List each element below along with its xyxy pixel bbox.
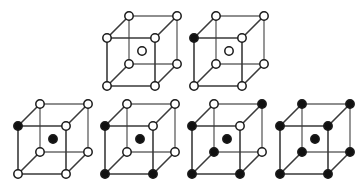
vertex-front-top-right-open [149,122,157,130]
unit-cell-cube-top-left [99,8,185,94]
vertex-front-top-right-open [151,34,159,42]
vertex-back-top-right-filled [258,100,266,108]
vertex-front-bottom-right-open [238,82,246,90]
vertex-front-bottom-right-open [62,170,70,178]
vertex-back-bottom-right-open [173,60,181,68]
vertex-back-bottom-left-filled [298,148,306,156]
cube-svg [99,8,185,94]
vertex-front-top-right-open [62,122,70,130]
vertex-back-top-left-open [123,100,131,108]
vertex-back-top-right-filled [346,100,354,108]
vertex-front-bottom-right-filled [324,170,332,178]
vertex-back-top-right-open [171,100,179,108]
cube-svg [97,96,183,181]
unit-cell-cube-bottom-1 [10,96,96,181]
vertex-back-bottom-left-open [123,148,131,156]
vertex-back-top-left-open [125,12,133,20]
vertex-front-bottom-left-open [14,170,22,178]
vertex-front-top-right-open [236,122,244,130]
center-site-filled [223,135,231,143]
vertex-back-bottom-right-filled [346,148,354,156]
cube-svg [184,96,270,181]
unit-cell-cube-bottom-3 [184,96,270,181]
cube-svg [186,8,272,94]
vertex-front-bottom-left-filled [276,170,284,178]
unit-cell-cube-top-right [186,8,272,94]
vertex-front-bottom-left-filled [188,170,196,178]
vertex-back-top-right-open [84,100,92,108]
vertex-back-top-right-open [173,12,181,20]
vertex-back-top-left-open [210,100,218,108]
vertex-back-bottom-left-filled [210,148,218,156]
vertex-back-top-left-open [212,12,220,20]
vertex-back-bottom-right-open [258,148,266,156]
center-site-filled [311,135,319,143]
vertex-back-bottom-right-open [171,148,179,156]
vertex-back-top-left-open [36,100,44,108]
vertex-back-top-right-open [260,12,268,20]
vertex-back-top-left-filled [298,100,306,108]
vertex-front-top-left-open [103,34,111,42]
vertex-back-bottom-left-open [212,60,220,68]
vertex-front-bottom-left-open [190,82,198,90]
unit-cell-cube-bottom-2 [97,96,183,181]
unit-cell-figure [0,0,363,181]
vertex-back-bottom-left-open [36,148,44,156]
center-site-filled [136,135,144,143]
vertex-front-bottom-right-filled [236,170,244,178]
vertex-front-bottom-right-open [151,82,159,90]
vertex-front-top-left-filled [188,122,196,130]
vertex-front-top-right-filled [324,122,332,130]
cube-svg [272,96,358,181]
vertex-front-top-left-filled [190,34,198,42]
center-site-filled [49,135,57,143]
vertex-back-bottom-right-open [260,60,268,68]
unit-cell-cube-bottom-4 [272,96,358,181]
vertex-front-top-right-open [238,34,246,42]
vertex-front-bottom-left-open [103,82,111,90]
vertex-back-bottom-right-open [84,148,92,156]
cube-svg [10,96,96,181]
vertex-front-top-left-filled [14,122,22,130]
vertex-front-bottom-left-filled [101,170,109,178]
vertex-back-bottom-left-open [125,60,133,68]
center-site-open [138,47,146,55]
vertex-front-bottom-right-filled [149,170,157,178]
vertex-front-top-left-filled [101,122,109,130]
vertex-front-top-left-filled [276,122,284,130]
center-site-open [225,47,233,55]
